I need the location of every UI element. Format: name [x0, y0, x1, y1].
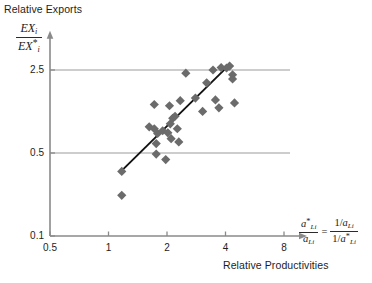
scatter-markers-group — [117, 61, 239, 200]
x-tick-label: 0.5 — [30, 242, 70, 253]
plot-area — [0, 0, 372, 283]
y-tick-label: 2.5 — [4, 64, 44, 75]
scatter-point — [152, 149, 161, 158]
scatter-point — [198, 107, 207, 116]
y-axis-arrowhead — [47, 31, 54, 39]
axes-group — [47, 31, 307, 240]
x-tick-label: 2 — [147, 242, 187, 253]
chart-figure: Relative Exports EXi EX*i a*Li aLi = 1/a… — [0, 0, 372, 283]
x-tick-label: 8 — [264, 242, 304, 253]
scatter-point — [150, 100, 159, 109]
scatter-point — [214, 103, 223, 112]
x-tick-label: 4 — [206, 242, 246, 253]
x-tick-label: 1 — [89, 242, 129, 253]
x-axis-arrowhead — [299, 233, 307, 240]
scatter-point — [230, 98, 239, 107]
scatter-point — [176, 96, 185, 105]
scatter-point — [161, 155, 170, 164]
scatter-point — [117, 191, 126, 200]
y-tick-label: 0.5 — [4, 147, 44, 158]
scatter-point — [165, 101, 174, 110]
y-tick-label: 0.1 — [4, 230, 44, 241]
scatter-point — [202, 78, 211, 87]
scatter-point — [211, 95, 220, 104]
scatter-point — [173, 124, 182, 133]
scatter-point — [208, 65, 217, 74]
